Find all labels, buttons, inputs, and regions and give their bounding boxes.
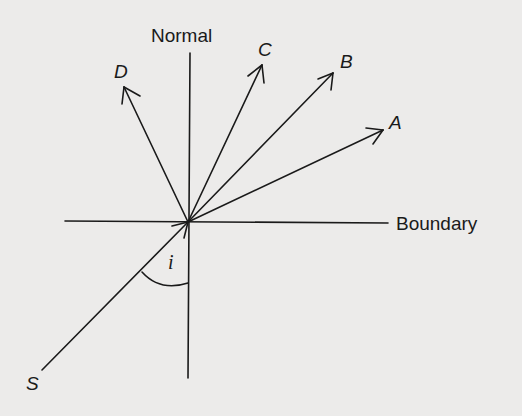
ray-c-arrow (188, 65, 264, 222)
ray-d-arrow (122, 87, 188, 222)
ray-a-arrow (188, 128, 383, 222)
normal-label: Normal (151, 26, 212, 45)
boundary-line (65, 221, 388, 223)
ray-b-arrow (188, 73, 333, 222)
angle-i-label: i (168, 252, 174, 272)
boundary-label: Boundary (396, 214, 477, 233)
ray-b-label: B (340, 52, 353, 71)
ray-a-label: A (389, 113, 402, 132)
source-s-label: S (26, 374, 39, 393)
ray-d-label: D (114, 62, 128, 81)
angle-i-arc (142, 272, 188, 286)
ray-c-label: C (258, 40, 272, 59)
normal-line (188, 53, 190, 378)
ray-diagram-svg (0, 0, 522, 416)
diagram-canvas: Normal Boundary A B C D S i (0, 0, 522, 416)
incident-ray-s (42, 222, 188, 370)
